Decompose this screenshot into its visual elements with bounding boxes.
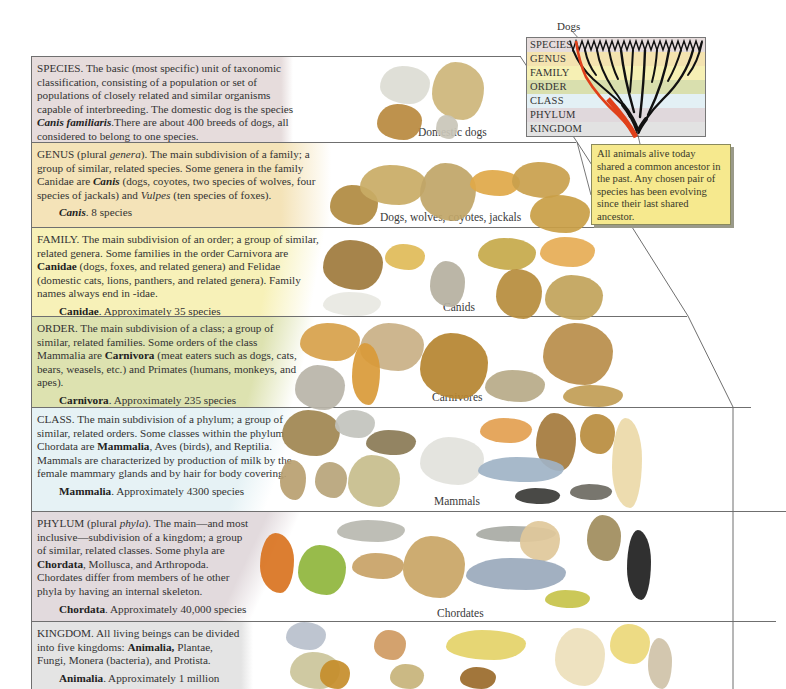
common-ancestor-callout: All animals alive today shared a common … [591,144,731,225]
